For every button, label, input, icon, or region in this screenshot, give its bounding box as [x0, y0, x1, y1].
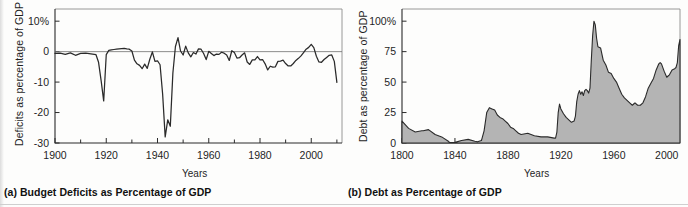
- x-tick-label: 1920: [549, 149, 573, 161]
- x-tick-label: 1960: [602, 149, 626, 161]
- panel-debt: Debt as percentage of GDP Years (b) Debt…: [344, 0, 688, 207]
- x-tick-label: 1900: [43, 149, 67, 161]
- y-tick-label: 100%: [369, 15, 396, 27]
- x-tick-label: 2000: [655, 149, 679, 161]
- caption-panel-b: (b) Debt as Percentage of GDP: [348, 186, 502, 198]
- chart-budget-deficits: 10%0-10-20-30190019201940196019802000: [0, 0, 344, 180]
- x-tick-label: 1940: [146, 149, 170, 161]
- x-tick-label: 1800: [390, 149, 414, 161]
- x-tick-label: 1920: [95, 149, 119, 161]
- x-tick-label: 1960: [197, 149, 221, 161]
- figure-container: Deficits as percentage of GDP Years (a) …: [0, 0, 688, 207]
- chart-debt: 100%7550250180018401880192019602000: [344, 0, 688, 180]
- y-tick-label: 0: [43, 45, 49, 57]
- y-tick-label: -30: [34, 137, 49, 149]
- caption-panel-a: (a) Budget Deficits as Percentage of GDP: [4, 186, 211, 198]
- y-tick-label: 0: [390, 137, 396, 149]
- data-area-debt: [402, 21, 680, 143]
- y-tick-label: 50: [384, 76, 396, 88]
- y-tick-label: 75: [384, 45, 396, 57]
- panel-budget-deficits: Deficits as percentage of GDP Years (a) …: [0, 0, 344, 207]
- y-tick-label: 25: [384, 106, 396, 118]
- y-tick-label: 10%: [28, 15, 49, 27]
- x-tick-label: 1880: [496, 149, 520, 161]
- y-tick-label: -20: [34, 106, 49, 118]
- data-line-deficits: [55, 38, 337, 137]
- y-tick-label: -10: [34, 76, 49, 88]
- figure-bottom-rule: [0, 204, 688, 205]
- x-tick-label: 1840: [443, 149, 467, 161]
- x-tick-label: 2000: [300, 149, 324, 161]
- x-tick-label: 1980: [248, 149, 272, 161]
